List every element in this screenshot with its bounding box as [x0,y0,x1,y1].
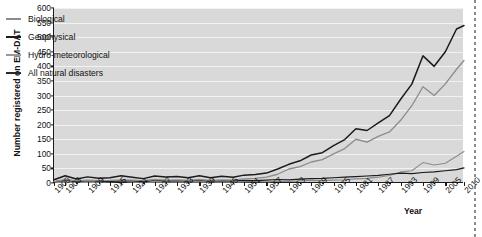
x-axis-minor-tick [255,182,256,184]
y-axis-tick-mark [51,95,55,96]
y-axis-tick-mark [51,153,55,154]
y-axis-tick-label: 0 [21,178,51,188]
y-axis-tick-mark [51,7,55,8]
x-axis-minor-tick [367,182,368,184]
series-line [54,26,464,180]
y-axis-tick-mark [51,109,55,110]
legend-swatch-icon [6,54,21,56]
legend-label: Biological [28,14,65,24]
legend-label: Hydro-meteorological [28,50,110,60]
x-axis-minor-tick [322,182,323,184]
y-axis-tick-mark [51,139,55,140]
x-axis-tick-label: 2010 [462,175,482,195]
x-axis-minor-tick [434,182,435,184]
series-layer [54,8,464,183]
legend-label: All natural disasters [28,68,103,78]
x-axis-minor-tick [76,182,77,184]
x-axis-minor-tick [121,182,122,184]
legend-swatch-icon [6,18,21,20]
y-axis-tick-label: 50 [21,163,51,173]
x-axis-minor-tick [188,182,189,184]
x-axis-title: Year [404,206,422,216]
y-axis-tick-label: 100 [21,149,51,159]
y-axis-tick-mark [51,124,55,125]
x-axis-minor-tick [143,182,144,184]
legend: BiologicalGeophysicalHydro-meteorologica… [6,10,110,82]
plot-area: 0501001502002503003504004505005506001900… [53,8,463,183]
y-axis-tick-label: 200 [21,120,51,130]
x-axis-minor-tick [300,182,301,184]
x-axis-minor-tick [389,182,390,184]
page-edge-decoration [474,0,476,237]
legend-item: All natural disasters [6,64,110,82]
legend-swatch-icon [6,36,21,38]
legend-item: Hydro-meteorological [6,46,110,64]
x-axis-minor-tick [166,182,167,184]
x-axis-minor-tick [99,182,100,184]
legend-swatch-icon [6,72,21,74]
x-axis-minor-tick [345,182,346,184]
x-axis-minor-tick [211,182,212,184]
legend-item: Biological [6,10,110,28]
series-line [54,61,464,182]
x-axis-minor-tick [412,182,413,184]
y-axis-tick-mark [51,168,55,169]
y-axis-tick-label: 250 [21,105,51,115]
legend-item: Geophysical [6,28,110,46]
x-axis-minor-tick [233,182,234,184]
x-axis-minor-tick [457,182,458,184]
y-axis-tick-label: 150 [21,134,51,144]
legend-label: Geophysical [28,32,75,42]
y-axis-tick-label: 300 [21,91,51,101]
x-axis-minor-tick [278,182,279,184]
